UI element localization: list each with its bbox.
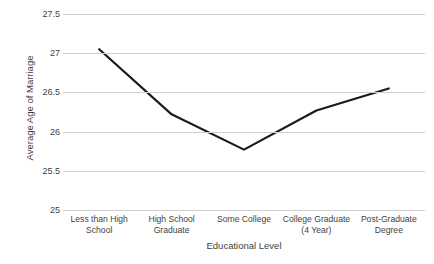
plot-area (63, 14, 425, 210)
y-axis-tick-labels: 27.52726.52625.525 (0, 0, 60, 264)
gridline (63, 53, 425, 54)
y-axis-tick-label: 25.5 (4, 166, 60, 176)
y-axis-tick-label: 26 (4, 127, 60, 137)
y-axis-tick-label: 26.5 (4, 87, 60, 97)
line-chart: Average Age of Marriage 27.52726.52625.5… (0, 0, 434, 264)
x-axis-title: Educational Level (63, 240, 425, 251)
gridline (63, 210, 425, 211)
gridline (63, 14, 425, 15)
y-axis-tick-label: 27 (4, 48, 60, 58)
gridline (63, 132, 425, 133)
y-axis-tick-label: 25 (4, 205, 60, 215)
gridline (63, 92, 425, 93)
gridline (63, 171, 425, 172)
y-axis-tick-label: 27.5 (4, 9, 60, 19)
data-series-line (63, 14, 425, 210)
